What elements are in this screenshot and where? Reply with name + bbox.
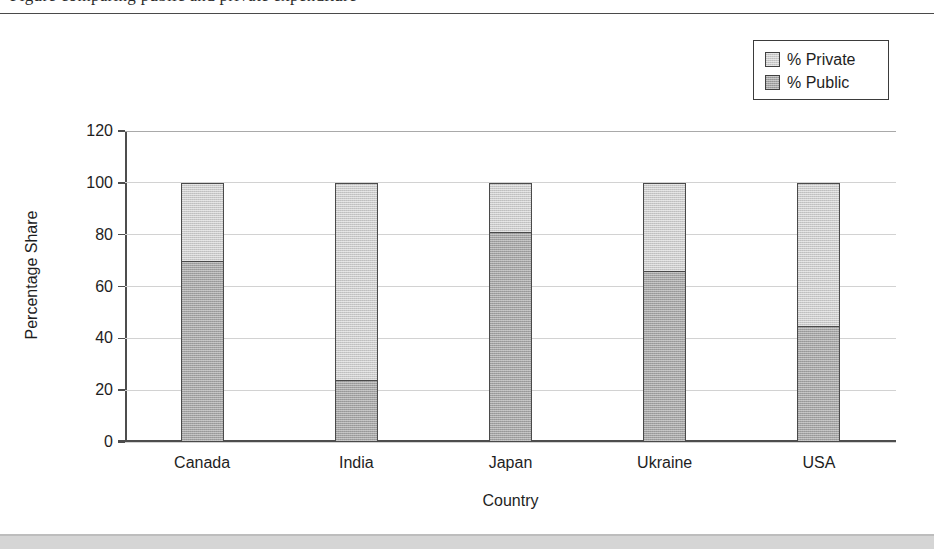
- plot-inner: 020406080100120CanadaIndiaJapanUkraineUS…: [125, 131, 896, 442]
- y-axis-tick-label: 20: [95, 381, 113, 399]
- y-axis-tick-label: 0: [104, 433, 113, 451]
- x-axis-tick-label-japan: Japan: [489, 454, 533, 472]
- bar-segment-private: [797, 183, 840, 327]
- bar-india: [335, 183, 378, 442]
- figure-page: Figure comparing public and private expe…: [0, 0, 934, 549]
- legend-label-private: % Private: [787, 52, 855, 68]
- bar-segment-public: [797, 325, 840, 442]
- y-axis-tick: [118, 389, 125, 390]
- y-axis-tick-label: 120: [86, 122, 113, 140]
- bar-segment-private: [181, 183, 224, 262]
- legend-swatch-private-icon: [765, 52, 780, 67]
- legend-swatch-public-icon: [765, 75, 780, 90]
- bar-segment-public: [489, 232, 532, 442]
- chart-legend: % Private % Public: [753, 40, 889, 100]
- plot-area: 020406080100120CanadaIndiaJapanUkraineUS…: [125, 131, 896, 442]
- x-axis-tick-label-india: India: [339, 454, 374, 472]
- y-axis-tick: [118, 234, 125, 235]
- bar-usa: [797, 183, 840, 442]
- y-axis-tick: [118, 441, 125, 442]
- y-axis-tick-label: 60: [95, 278, 113, 296]
- y-axis-tick: [118, 286, 125, 287]
- x-axis-tick-label-canada: Canada: [174, 454, 230, 472]
- horizontal-rule: [0, 13, 934, 14]
- legend-label-public: % Public: [787, 75, 849, 91]
- bar-segment-public: [643, 271, 686, 442]
- y-axis-tick-label: 80: [95, 226, 113, 244]
- clipped-caption-text: Figure comparing public and private expe…: [0, 0, 934, 9]
- legend-entry-public: % Public: [765, 71, 888, 94]
- bar-segment-public: [181, 261, 224, 442]
- y-gridline: [125, 131, 896, 132]
- bar-segment-private: [489, 183, 532, 234]
- y-axis-tick-label: 40: [95, 329, 113, 347]
- x-axis-tick-label-usa: USA: [802, 454, 835, 472]
- bar-segment-private: [335, 183, 378, 381]
- y-axis-tick-label: 100: [86, 174, 113, 192]
- y-axis-title: Percentage Share: [23, 175, 41, 375]
- bar-ukraine: [643, 183, 686, 442]
- scan-bottom-band: [0, 534, 934, 549]
- y-axis-tick: [118, 130, 125, 131]
- chart-figure: % Private % Public Percentage Share 0204…: [0, 16, 934, 534]
- y-axis-tick: [118, 182, 125, 183]
- bar-segment-private: [643, 183, 686, 273]
- x-axis-title: Country: [125, 492, 896, 510]
- y-axis-tick: [118, 338, 125, 339]
- bar-japan: [489, 183, 532, 442]
- x-axis-tick-label-ukraine: Ukraine: [637, 454, 692, 472]
- bar-canada: [181, 183, 224, 442]
- bar-segment-public: [335, 380, 378, 442]
- legend-entry-private: % Private: [765, 48, 888, 71]
